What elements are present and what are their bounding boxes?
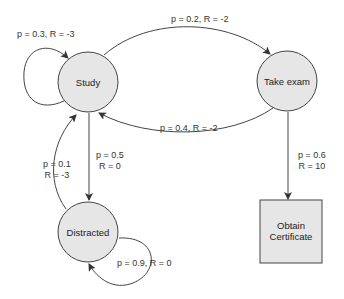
edge-label-line1: p = 0.6 xyxy=(298,150,326,161)
edge-label-distracted-to-study: p = 0.1 R = -3 xyxy=(43,159,71,181)
edge-label-line1: p = 0.1 xyxy=(43,159,71,170)
edge-label-line2: R = 10 xyxy=(298,161,326,172)
node-distracted-label: Distracted xyxy=(58,226,118,238)
edge-label-distracted-self: p = 0.9, R = 0 xyxy=(117,258,172,269)
edge-label-line1: p = 0.5 xyxy=(96,150,124,161)
certificate-label-line1: Obtain xyxy=(277,220,305,231)
edge-label-study-to-distracted: p = 0.5 R = 0 xyxy=(96,150,124,172)
node-study-label: Study xyxy=(58,76,118,88)
node-obtain-certificate-label: Obtain Certificate xyxy=(260,219,322,243)
edge-label-line2: R = 0 xyxy=(96,161,124,172)
edge-study-to-takeexam xyxy=(104,27,270,55)
edge-label-study-self: p = 0.3, R = -3 xyxy=(17,29,75,40)
edge-label-line2: R = -3 xyxy=(43,170,71,181)
edge-label-study-to-takeexam: p = 0.2, R = -2 xyxy=(171,14,229,25)
diagram-canvas xyxy=(0,0,344,299)
edge-label-takeexam-to-certificate: p = 0.6 R = 10 xyxy=(298,150,326,172)
edge-label-takeexam-to-study: p = 0.4, R = -2 xyxy=(160,123,218,134)
certificate-label-line2: Certificate xyxy=(270,231,313,242)
node-take-exam-label: Take exam xyxy=(257,75,317,87)
